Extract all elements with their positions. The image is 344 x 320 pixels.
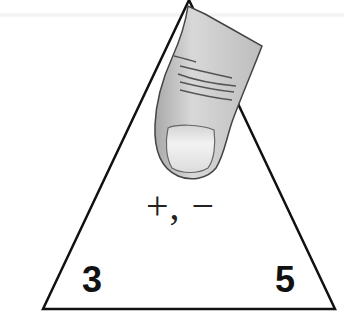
corner-bottom-right-number: 5: [275, 262, 295, 298]
operations-label: +, −: [146, 186, 215, 226]
fingernail: [166, 125, 214, 172]
corner-bottom-left-number: 3: [82, 262, 102, 298]
